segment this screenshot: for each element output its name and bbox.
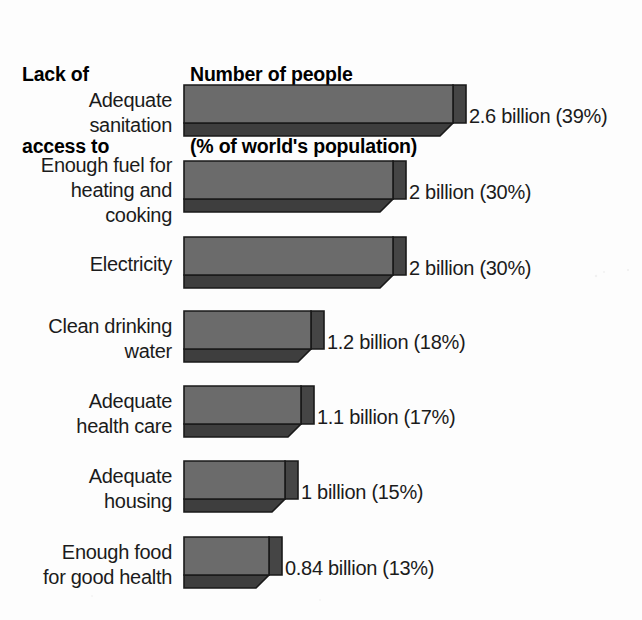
bar-bottom-face	[184, 499, 285, 512]
bar-category-label-line: Electricity	[0, 252, 172, 277]
bar-category-label: Electricity	[0, 252, 172, 277]
bar-side-face	[393, 237, 406, 275]
bar-side-face	[285, 461, 298, 499]
bar-data-label: 1.2 billion (18%)	[327, 330, 465, 355]
bar-3d	[183, 236, 408, 290]
bar-data-label: 1.1 billion (17%)	[317, 405, 455, 430]
bar-data-label: 1 billion (15%)	[301, 480, 423, 505]
bar-category-label-line: Adequate	[0, 464, 172, 489]
bar-3d	[183, 536, 284, 590]
bar-bottom-face	[184, 275, 393, 288]
bar-3d	[183, 84, 468, 138]
bar-3d	[183, 160, 408, 214]
bar-side-face	[311, 311, 324, 349]
bar-category-label-line: health care	[0, 414, 172, 439]
bar-category-label: Clean drinkingwater	[0, 314, 172, 364]
bar-side-face	[269, 537, 282, 575]
bar-category-label-line: Enough food	[0, 540, 172, 565]
bar-category-label-line: sanitation	[0, 113, 172, 138]
bar-category-label-line: Clean drinking	[0, 314, 172, 339]
bar-side-face	[301, 386, 314, 424]
bar-front-face	[184, 537, 269, 575]
bar-bottom-face	[184, 424, 301, 437]
bar-category-label-line: Adequate	[0, 88, 172, 113]
bar-category-label-line: Enough fuel for	[0, 153, 172, 178]
bar-side-face	[393, 161, 406, 199]
bar-bottom-face	[184, 349, 311, 362]
bar-category-label-line: cooking	[0, 203, 172, 228]
bar-front-face	[184, 311, 311, 349]
bar-front-face	[184, 161, 393, 199]
bar-category-label: Adequatehealth care	[0, 389, 172, 439]
bar-chart-plot: Adequatesanitation2.6 billion (39%)Enoug…	[0, 0, 642, 620]
bar-category-label-line: heating and	[0, 178, 172, 203]
bar-category-label-line: water	[0, 339, 172, 364]
bar-3d	[183, 385, 316, 439]
bar-front-face	[184, 461, 285, 499]
bar-data-label: 2.6 billion (39%)	[469, 104, 607, 129]
bar-3d	[183, 310, 326, 364]
bar-bottom-face	[184, 123, 453, 136]
bar-category-label-line: Adequate	[0, 389, 172, 414]
bar-category-label: Enough fuel forheating andcooking	[0, 153, 172, 228]
bar-bottom-face	[184, 575, 269, 588]
bar-category-label-line: for good health	[0, 565, 172, 590]
bar-3d	[183, 460, 300, 514]
bar-category-label: Enough foodfor good health	[0, 540, 172, 590]
bar-category-label: Adequatehousing	[0, 464, 172, 514]
bar-front-face	[184, 85, 453, 123]
bar-data-label: 2 billion (30%)	[409, 256, 531, 281]
bar-data-label: 0.84 billion (13%)	[285, 556, 434, 581]
bar-side-face	[453, 85, 466, 123]
bar-data-label: 2 billion (30%)	[409, 180, 531, 205]
bar-category-label-line: housing	[0, 489, 172, 514]
bar-bottom-face	[184, 199, 393, 212]
bar-category-label: Adequatesanitation	[0, 88, 172, 138]
bar-front-face	[184, 386, 301, 424]
bar-front-face	[184, 237, 393, 275]
chart-page: Lack of access to Number of people (% of…	[0, 0, 642, 620]
